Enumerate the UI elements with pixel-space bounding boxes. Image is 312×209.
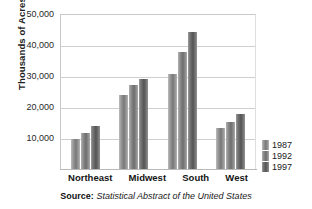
bar-group [119,15,148,169]
y-tick-label: 10,000 [8,133,54,143]
bar[interactable] [91,126,100,169]
bar[interactable] [226,122,235,169]
bar-chart: Thousands of Acres 10,00020,00030,00040,… [0,0,312,209]
x-axis-line [60,169,257,170]
bar-groups [61,15,255,169]
legend-swatch [262,151,269,161]
y-tick-label: 20,000 [8,102,54,112]
bar[interactable] [129,85,138,169]
category-label: Northeast [68,172,112,183]
legend-item[interactable]: 1987 [262,139,292,150]
bar-group [216,15,245,169]
y-tick-label: 40,000 [8,40,54,50]
bar-group [168,15,197,169]
x-axis-category-labels: NortheastMidwestSouthWest [60,172,256,183]
bar[interactable] [216,128,225,169]
bar[interactable] [139,79,148,169]
category-label: Midwest [129,172,166,183]
y-tick-label: 50,000 [8,9,54,19]
bar[interactable] [236,114,245,169]
bar[interactable] [188,32,197,169]
category-label: West [225,172,248,183]
legend-label: 1997 [272,162,292,172]
legend-label: 1992 [272,151,292,161]
legend: 198719921997 [262,139,292,172]
bar[interactable] [178,52,187,169]
bar[interactable] [119,95,128,169]
legend-item[interactable]: 1997 [262,161,292,172]
legend-swatch [262,162,269,172]
bar[interactable] [81,133,90,169]
source-note: Source: Statistical Abstract of the Unit… [0,191,312,201]
bar[interactable] [71,139,80,169]
source-title: Statistical Abstract of the United State… [96,191,251,201]
y-tick-label: 30,000 [8,71,54,81]
category-label: South [182,172,209,183]
bar[interactable] [168,74,177,169]
y-axis-tick-labels: 10,00020,00030,00040,00050,000 [8,0,54,209]
plot-area [60,14,256,169]
legend-item[interactable]: 1992 [262,150,292,161]
legend-swatch [262,140,269,150]
legend-label: 1987 [272,140,292,150]
bar-group [71,15,100,169]
source-label: Source: [60,191,94,201]
